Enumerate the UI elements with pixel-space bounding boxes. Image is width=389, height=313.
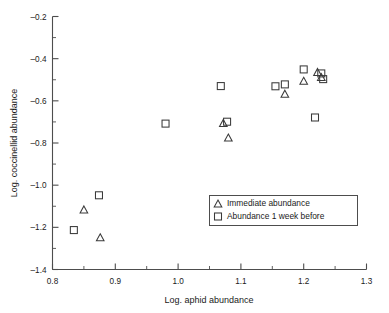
y-tick-label: –0.6 (31, 97, 47, 106)
x-tick-label: 1.1 (235, 277, 247, 286)
data-point-triangle (225, 134, 233, 141)
y-axis-ticks (53, 17, 59, 270)
x-tick-label: 1.3 (361, 277, 373, 286)
data-point-square (162, 120, 169, 127)
y-tick-label: –1.0 (31, 181, 47, 190)
x-axis-title: Log. aphid abundance (164, 295, 253, 305)
x-tick-label: 1.0 (172, 277, 184, 286)
data-point-triangle (96, 234, 104, 241)
data-point-square (272, 83, 279, 90)
legend-label: Abundance 1 week before (227, 211, 325, 221)
legend: Immediate abundanceAbundance 1 week befo… (210, 196, 358, 226)
y-axis-tick-labels: –0.2–0.4–0.6–0.8–1.0–1.2–1.4 (31, 13, 47, 275)
y-tick-label: –0.4 (31, 55, 47, 64)
data-point-triangle (80, 206, 88, 213)
y-tick-label: –0.8 (31, 139, 47, 148)
scatter-plot-figure: 0.80.91.01.11.21.3 –0.2–0.4–0.6–0.8–1.0–… (0, 0, 389, 313)
legend-label: Immediate abundance (227, 198, 310, 208)
x-tick-label: 0.8 (47, 277, 59, 286)
y-tick-label: –1.4 (31, 266, 47, 275)
data-point-square (95, 192, 102, 199)
x-axis-tick-labels: 0.80.91.01.11.21.3 (47, 277, 373, 286)
data-point-square (217, 83, 224, 90)
y-tick-label: –0.2 (31, 13, 47, 22)
data-point-triangle (300, 77, 308, 84)
x-axis-ticks (53, 264, 367, 270)
data-point-square (300, 66, 307, 73)
y-axis-title: Log. coccinellid abundance (9, 89, 19, 198)
data-point-square (70, 227, 77, 234)
data-point-square (281, 81, 288, 88)
x-tick-label: 1.2 (298, 277, 310, 286)
data-point-triangle (281, 90, 289, 97)
data-point-square (312, 114, 319, 121)
x-tick-label: 0.9 (110, 277, 122, 286)
y-tick-label: –1.2 (31, 223, 47, 232)
plot-axes (53, 17, 367, 270)
plot-canvas: 0.80.91.01.11.21.3 –0.2–0.4–0.6–0.8–1.0–… (0, 0, 389, 313)
